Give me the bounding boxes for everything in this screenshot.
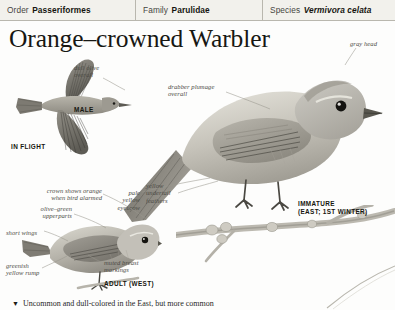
order-label: Order bbox=[7, 5, 29, 15]
body-text-line: Uncommon and dull-colored in the East, b… bbox=[23, 299, 214, 308]
annotation-drabber-plumage: drabber plumage overall bbox=[168, 83, 214, 98]
taxonomy-header: Order Passeriformes Family Parulidae Spe… bbox=[0, 0, 395, 21]
page-curl-decoration bbox=[323, 264, 395, 310]
species-body-text: ▼Uncommon and dull-colored in the East, … bbox=[12, 299, 312, 308]
annotation-yellow-undertail: yellow undertail feathers bbox=[146, 182, 171, 204]
leader-yellow-undertail bbox=[178, 181, 220, 197]
annotation-muted-breast: muted breast markings bbox=[104, 259, 139, 274]
label-in-flight: IN FLIGHT bbox=[11, 143, 45, 151]
leader-gray-head bbox=[344, 48, 358, 66]
annotation-gray-head: gray head bbox=[350, 40, 377, 47]
taxonomy-family-cell: Family Parulidae bbox=[135, 0, 262, 21]
label-male: MALE bbox=[74, 106, 94, 114]
family-value: Parulidae bbox=[172, 5, 210, 15]
leader-olive-green bbox=[74, 214, 108, 230]
order-value: Passeriformes bbox=[32, 5, 91, 15]
label-adult-west: ADULT (WEST) bbox=[104, 280, 154, 288]
family-label: Family bbox=[143, 5, 168, 15]
annotation-crown-orange: crown shows orange when bird alarmed bbox=[20, 187, 102, 202]
taxonomy-species-cell: Species Vermivora celata bbox=[262, 0, 395, 21]
taxonomy-order-cell: Order Passeriformes bbox=[0, 0, 135, 21]
annotation-dull-olive: dull olive overall bbox=[74, 64, 99, 79]
annotation-short-wings: short wings bbox=[6, 229, 37, 236]
species-value: Vermivora celata bbox=[304, 5, 372, 15]
leader-greenish-rump bbox=[42, 256, 68, 270]
field-guide-page: Order Passeriformes Family Parulidae Spe… bbox=[0, 0, 395, 310]
leader-drabber-plumage bbox=[226, 92, 272, 112]
leader-crown-orange bbox=[103, 194, 147, 220]
label-immature: IMMATURE (EAST; 1ST WINTER) bbox=[298, 200, 368, 216]
leader-muted-breast bbox=[88, 255, 106, 269]
annotation-greenish-rump: greenish yellow rump bbox=[6, 262, 39, 277]
bullet-marker: ▼ bbox=[12, 300, 19, 308]
leader-short-wings bbox=[44, 231, 70, 243]
species-label: Species bbox=[270, 5, 300, 15]
annotation-olive-green-upperparts: olive–green upperparts bbox=[16, 205, 72, 220]
